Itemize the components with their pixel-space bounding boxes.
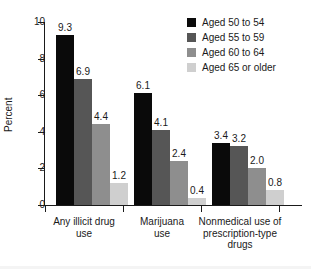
legend-color-swatch <box>187 48 196 57</box>
bar-chart: Percent 0246810 9.36.94.41.26.14.12.40.4… <box>0 0 311 269</box>
legend-item: Aged 65 or older <box>187 60 276 75</box>
legend-color-swatch <box>187 63 196 72</box>
y-tick: 4 <box>18 132 45 133</box>
bar-value-label: 2.0 <box>244 156 270 166</box>
y-tick: 8 <box>18 59 45 60</box>
y-tick: 2 <box>18 168 45 169</box>
x-axis-line <box>44 205 302 206</box>
x-tick-mark <box>201 206 202 212</box>
bar-value-label: 6.9 <box>70 67 96 77</box>
bar-group: 9.36.94.41.2 <box>56 22 128 205</box>
x-tick-mark <box>279 206 280 212</box>
bar-value-label: 1.2 <box>106 171 132 181</box>
x-tick-mark <box>123 206 124 212</box>
bar <box>152 130 170 205</box>
bar <box>74 79 92 205</box>
y-tick: 0 <box>18 205 45 206</box>
legend-item-label: Aged 50 to 54 <box>202 18 264 28</box>
bar <box>110 183 128 205</box>
x-axis-category-label-line: prescription-type <box>188 228 292 240</box>
bar-value-label: 0.8 <box>262 178 288 188</box>
bar <box>134 93 152 205</box>
bar-value-label: 9.3 <box>52 23 78 33</box>
bar <box>230 146 248 205</box>
bar <box>266 190 284 205</box>
bar <box>170 161 188 205</box>
y-tick-mark <box>38 59 45 60</box>
bar <box>212 143 230 205</box>
y-tick: 10 <box>18 22 45 23</box>
legend-item-label: Aged 60 to 64 <box>202 48 264 58</box>
y-tick-mark <box>38 132 45 133</box>
bar-value-label: 2.4 <box>166 149 192 159</box>
bar-value-label: 3.2 <box>226 134 252 144</box>
legend-item-label: Aged 55 to 59 <box>202 33 264 43</box>
legend-item: Aged 50 to 54 <box>187 15 276 30</box>
x-tick-mark <box>45 206 46 212</box>
y-axis-title: Percent <box>0 84 18 146</box>
legend-color-swatch <box>187 18 196 27</box>
x-axis-category-label-line: drugs <box>188 239 292 251</box>
legend: Aged 50 to 54Aged 55 to 59Aged 60 to 64A… <box>187 15 276 75</box>
legend-color-swatch <box>187 33 196 42</box>
bar-value-label: 0.4 <box>184 186 210 196</box>
x-axis-category-label-line: Nonmedical use of <box>188 216 292 228</box>
bar <box>92 124 110 205</box>
y-tick: 6 <box>18 95 45 96</box>
legend-item: Aged 60 to 64 <box>187 45 276 60</box>
bar-value-label: 4.4 <box>88 112 114 122</box>
bar <box>188 198 206 205</box>
y-tick-mark <box>38 22 45 23</box>
y-tick-mark <box>38 95 45 96</box>
legend-item: Aged 55 to 59 <box>187 30 276 45</box>
bar-value-label: 6.1 <box>130 81 156 91</box>
bar <box>56 35 74 205</box>
legend-item-label: Aged 65 or older <box>202 63 276 73</box>
x-axis-category-label: Nonmedical use ofprescription-typedrugs <box>188 216 292 251</box>
y-tick-mark <box>38 168 45 169</box>
bar-value-label: 4.1 <box>148 118 174 128</box>
